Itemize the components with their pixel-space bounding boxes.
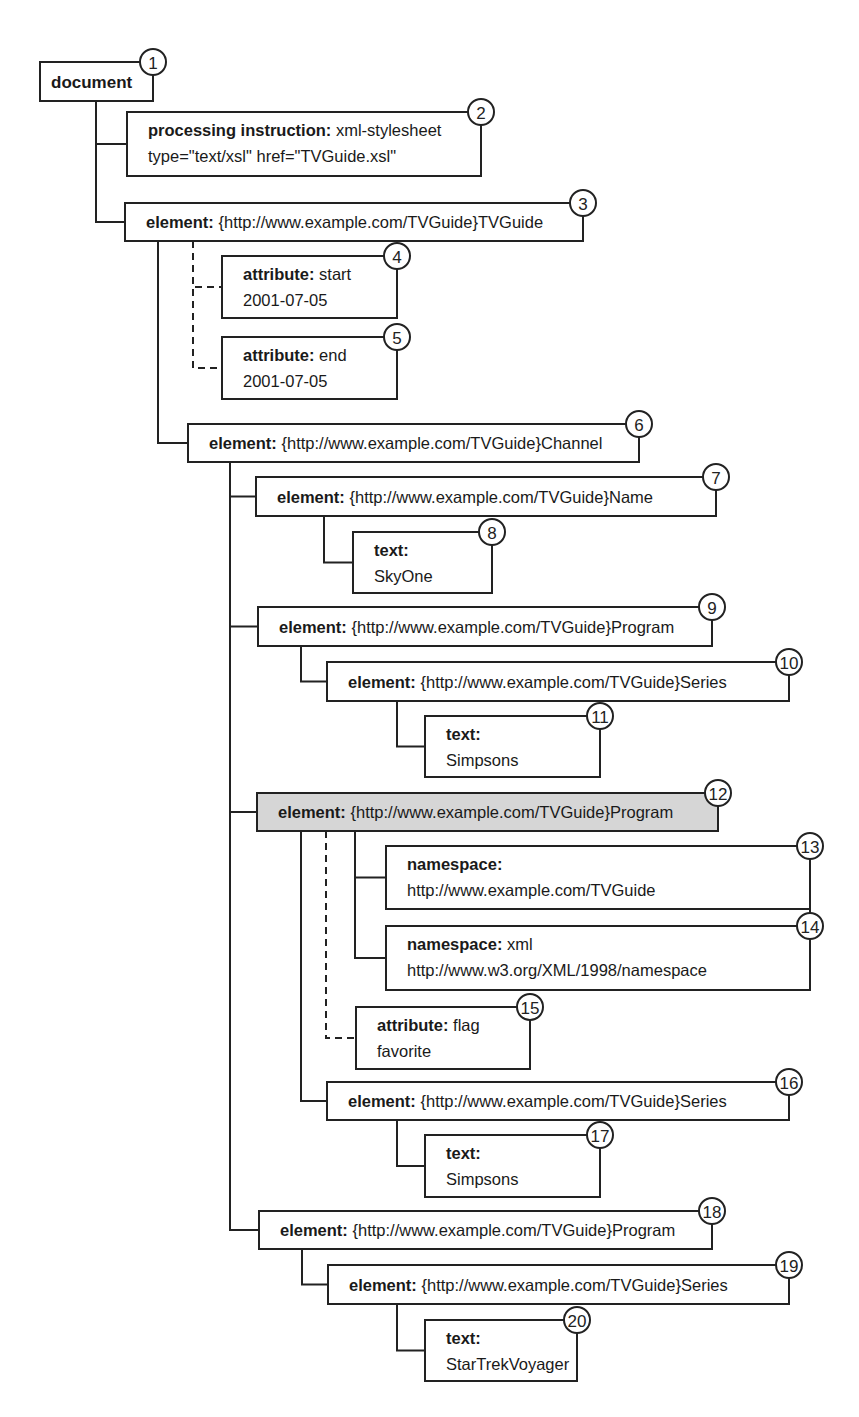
connector-10-to-11 <box>397 701 425 747</box>
node-kind: text <box>446 1144 476 1162</box>
node-number-badge: 12 <box>705 780 731 806</box>
tree-node-15: attribute: flagfavorite15 <box>356 994 543 1069</box>
node-kind: attribute <box>377 1016 443 1034</box>
node-number-badge: 11 <box>587 703 613 729</box>
node-label-line1: attribute: start <box>243 265 352 283</box>
node-label-line2: 2001-07-05 <box>243 291 327 309</box>
node-label-line2: type="text/xsl" href="TVGuide.xsl" <box>148 147 396 165</box>
node-label-line1: namespace: xml <box>407 935 533 953</box>
node-kind: namespace <box>407 855 497 873</box>
node-kind: attribute <box>243 265 309 283</box>
node-number-badge: 20 <box>564 1307 590 1333</box>
badge-number: 11 <box>591 708 609 727</box>
tree-node-9: element: {http://www.example.com/TVGuide… <box>258 594 725 646</box>
connector-3-to-5 <box>193 241 222 368</box>
node-value: {http://www.example.com/TVGuide}Series <box>416 673 727 691</box>
badge-number: 2 <box>476 104 485 123</box>
node-label-line1: attribute: flag <box>377 1016 480 1034</box>
connector-6-to-12 <box>230 462 257 812</box>
node-value: start <box>315 265 352 283</box>
tree-node-4: attribute: start2001-07-054 <box>222 243 410 318</box>
node-kind: text <box>446 1329 476 1347</box>
node-kind: element <box>278 803 341 821</box>
badge-number: 3 <box>578 195 587 214</box>
tree-node-18: element: {http://www.example.com/TVGuide… <box>259 1198 725 1249</box>
node-number-badge: 13 <box>797 833 823 859</box>
node-label-line1: element: {http://www.example.com/TVGuide… <box>146 213 543 231</box>
node-label-line2: http://www.w3.org/XML/1998/namespace <box>407 961 707 979</box>
connector-7-to-8 <box>324 516 353 563</box>
node-kind: namespace <box>407 935 497 953</box>
node-label-line1: text: <box>446 1144 481 1162</box>
node-number-badge: 17 <box>587 1122 613 1148</box>
connector-3-to-6 <box>158 241 188 443</box>
tree-node-13: namespace:http://www.example.com/TVGuide… <box>386 833 823 909</box>
connector-6-to-18 <box>230 462 259 1230</box>
node-kind: document <box>51 73 133 92</box>
badge-number: 17 <box>591 1127 610 1146</box>
badge-number: 5 <box>392 329 401 348</box>
node-value: {http://www.example.com/TVGuide}Name <box>345 488 653 506</box>
connector-12-to-13 <box>355 831 386 878</box>
node-kind: text <box>446 725 476 743</box>
tree-node-20: text:StarTrekVoyager20 <box>425 1307 590 1381</box>
badge-number: 7 <box>711 469 720 488</box>
node-label-line2: SkyOne <box>374 567 433 585</box>
node-number-badge: 7 <box>703 464 729 490</box>
node-label-line2: StarTrekVoyager <box>446 1355 570 1373</box>
node-value: {http://www.example.com/TVGuide}Program <box>348 1221 675 1239</box>
badge-number: 8 <box>487 524 496 543</box>
connector-12-to-16 <box>301 831 327 1101</box>
node-kind-colon: : <box>403 541 409 559</box>
node-number-badge: 19 <box>776 1252 802 1278</box>
tree-node-6: element: {http://www.example.com/TVGuide… <box>188 411 652 462</box>
tree-node-3: element: {http://www.example.com/TVGuide… <box>125 190 596 241</box>
node-label-line2: http://www.example.com/TVGuide <box>407 881 656 899</box>
node-label-line2: Simpsons <box>446 751 518 769</box>
node-kind: element <box>349 1276 412 1294</box>
node-number-badge: 2 <box>468 99 494 125</box>
badge-number: 10 <box>780 654 799 673</box>
node-value: {http://www.example.com/TVGuide}Program <box>347 618 674 636</box>
node-number-badge: 9 <box>699 594 725 620</box>
connector-9-to-10 <box>301 646 327 682</box>
node-number-badge: 16 <box>776 1069 802 1095</box>
connector-12-to-15 <box>326 831 356 1038</box>
tree-node-7: element: {http://www.example.com/TVGuide… <box>256 464 729 516</box>
tree-node-14: namespace: xmlhttp://www.w3.org/XML/1998… <box>386 913 823 990</box>
badge-number: 19 <box>780 1257 799 1276</box>
node-label-line1: attribute: end <box>243 346 347 364</box>
node-kind: element <box>348 673 411 691</box>
tree-node-19: element: {http://www.example.com/TVGuide… <box>328 1252 802 1304</box>
connector-1-to-2 <box>96 101 127 144</box>
node-value: {http://www.example.com/TVGuide}Channel <box>277 434 603 452</box>
badge-number: 13 <box>801 838 820 857</box>
xml-node-tree-diagram: document1processing instruction: xml-sty… <box>0 0 859 1417</box>
node-label-line1: element: {http://www.example.com/TVGuide… <box>278 803 673 821</box>
node-label-line1: element: {http://www.example.com/TVGuide… <box>279 618 674 636</box>
node-kind-colon: : <box>475 1144 481 1162</box>
node-number-badge: 15 <box>517 994 543 1020</box>
node-value: flag <box>449 1016 480 1034</box>
node-number-badge: 14 <box>797 913 823 939</box>
node-kind-colon: : <box>475 725 481 743</box>
node-label-line1: text: <box>446 725 481 743</box>
node-kind: element <box>279 618 342 636</box>
badge-number: 1 <box>148 54 157 73</box>
node-value: {http://www.example.com/TVGuide}Program <box>346 803 673 821</box>
node-number-badge: 10 <box>776 649 802 675</box>
node-label-line1: element: {http://www.example.com/TVGuide… <box>209 434 602 452</box>
connector-3-to-4 <box>193 241 222 287</box>
node-label-line2: favorite <box>377 1042 431 1060</box>
node-value: xml-stylesheet <box>331 121 441 139</box>
node-kind: element <box>209 434 272 452</box>
tree-node-10: element: {http://www.example.com/TVGuide… <box>327 649 802 701</box>
node-number-badge: 8 <box>479 519 505 545</box>
badge-number: 18 <box>703 1203 722 1222</box>
tree-node-2: processing instruction: xml-stylesheetty… <box>127 99 494 176</box>
node-number-badge: 5 <box>384 324 410 350</box>
node-label-line1: processing instruction: xml-stylesheet <box>148 121 442 139</box>
badge-number: 15 <box>521 999 540 1018</box>
node-number-badge: 18 <box>699 1198 725 1224</box>
connector-12-to-14 <box>355 831 386 958</box>
